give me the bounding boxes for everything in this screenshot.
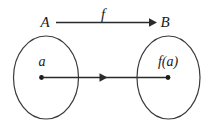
top-arrow-head-icon [149, 18, 157, 27]
diagram-canvas: B ===== --> A f B a f(a) [0, 0, 214, 128]
domain-label-A: A [39, 14, 50, 30]
codomain-label-B: B [160, 14, 169, 30]
function-mapping-figure: B ===== --> A f B a f(a) [0, 0, 214, 128]
mapping-arrow-head-icon [100, 73, 108, 82]
element-label-fa: f(a) [158, 54, 179, 70]
codomain-element-dot [166, 75, 171, 80]
function-label-f: f [101, 6, 107, 22]
element-label-a: a [39, 54, 46, 69]
